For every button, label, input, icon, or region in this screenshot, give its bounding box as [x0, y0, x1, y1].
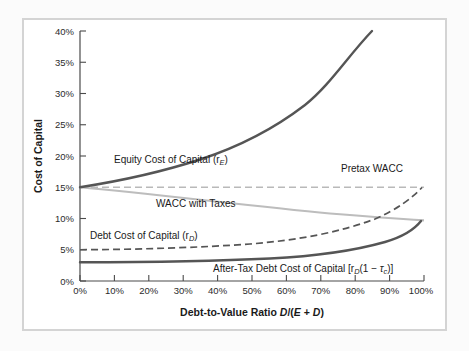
annotation-debt-cost-of-capital: Debt Cost of Capital (rD) — [90, 230, 198, 243]
cost-of-capital-chart: 40% 35% 30% 25% 20% 15% 10% 5% 0% — [0, 0, 469, 351]
y-ticklabel-35: 35% — [55, 57, 75, 68]
x-ticklabel-0: 0% — [73, 285, 87, 296]
y-ticklabel-15: 15% — [55, 182, 75, 193]
annotation-wacc-with-taxes: WACC with Taxes — [156, 198, 235, 209]
annotation-debt-close: ) — [194, 230, 197, 241]
annotation-equity-close: ) — [225, 154, 228, 165]
annotation-equity-text: Equity Cost of Capital (r — [114, 154, 220, 165]
y-ticklabel-25: 25% — [55, 119, 75, 130]
y-ticklabel-30: 30% — [55, 88, 75, 99]
x-ticklabel-40: 40% — [208, 285, 228, 296]
y-ticklabel-10: 10% — [55, 213, 75, 224]
x-axis-ticks — [80, 275, 424, 281]
figure-container: 40% 35% 30% 25% 20% 15% 10% 5% 0% — [0, 0, 469, 351]
x-axis-ticklabels: 0% 10% 20% 30% 40% 50% 60% 70% 80% 90% 1… — [73, 285, 434, 296]
annotation-equity-cost-of-capital: Equity Cost of Capital (rE) — [114, 154, 228, 167]
y-ticklabel-40: 40% — [55, 26, 75, 37]
chart-plot-area: 40% 35% 30% 25% 20% 15% 10% 5% 0% — [0, 0, 469, 351]
annotation-after-tax-debt-cost-of-capital: After-Tax Debt Cost of Capital [rD(1 − τ… — [213, 263, 394, 276]
annotation-aftertax-close: )] — [387, 263, 393, 274]
annotation-pretax-wacc: Pretax WACC — [341, 163, 403, 174]
annotation-aftertax-mid: (1 − — [360, 263, 380, 274]
x-ticklabel-100: 100% — [409, 285, 434, 296]
y-axis-ticklabels: 40% 35% 30% 25% 20% 15% 10% 5% 0% — [55, 26, 75, 287]
annotation-debt-text: Debt Cost of Capital (r — [90, 230, 190, 241]
x-axis-title-text: Debt-to-Value Ratio — [180, 306, 280, 318]
x-ticklabel-80: 80% — [346, 285, 366, 296]
y-axis-ticks — [80, 31, 86, 281]
y-ticklabel-20: 20% — [55, 151, 75, 162]
x-ticklabel-20: 20% — [139, 285, 159, 296]
x-axis-title-close: ) — [320, 306, 324, 318]
annotation-aftertax-text: After-Tax Debt Cost of Capital [r — [213, 263, 355, 274]
x-ticklabel-10: 10% — [105, 285, 125, 296]
x-ticklabel-70: 70% — [311, 285, 331, 296]
y-axis-title: Cost of Capital — [32, 119, 44, 193]
x-axis-title: Debt-to-Value Ratio D/(E + D) — [180, 306, 324, 318]
x-axis-title-plus: + — [301, 306, 313, 318]
y-ticklabel-5: 5% — [60, 244, 74, 255]
x-ticklabel-60: 60% — [277, 285, 297, 296]
x-ticklabel-50: 50% — [242, 285, 262, 296]
x-ticklabel-90: 90% — [380, 285, 400, 296]
x-ticklabel-30: 30% — [174, 285, 194, 296]
series-wacc-with-taxes — [80, 187, 424, 220]
series-after-tax-debt-cost-of-capital — [80, 221, 421, 262]
